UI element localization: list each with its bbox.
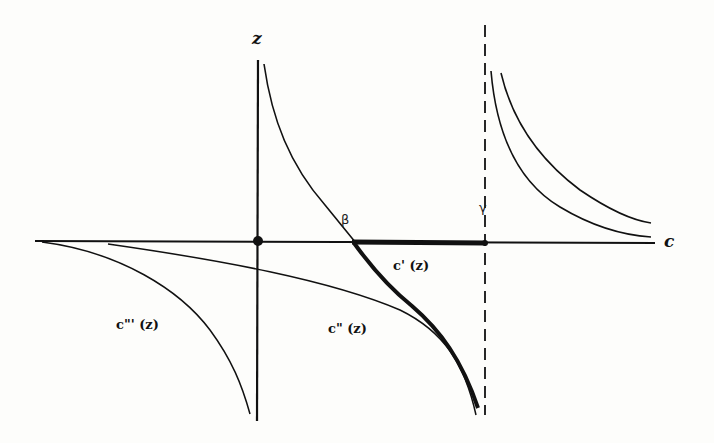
z-axis-label: z	[252, 28, 262, 48]
c-axis	[35, 241, 655, 243]
c-triple-prime-label: c"' (z)	[116, 317, 159, 332]
diagram-canvas: z c β γ c' (z) c" (z) c"' (z)	[0, 0, 714, 443]
beta-label: β	[341, 212, 349, 227]
beta-gamma-segment	[352, 242, 485, 243]
c-double-prime-label: c" (z)	[328, 321, 367, 336]
gamma-label: γ	[479, 200, 487, 215]
c-prime-label: c' (z)	[393, 258, 429, 273]
right-lower-curve	[491, 71, 651, 237]
origin-dot	[253, 236, 263, 246]
c-axis-label: c	[664, 231, 674, 251]
gamma-point-dot	[482, 240, 488, 246]
right-upper-curve	[501, 73, 651, 223]
diagram-svg	[0, 0, 714, 443]
